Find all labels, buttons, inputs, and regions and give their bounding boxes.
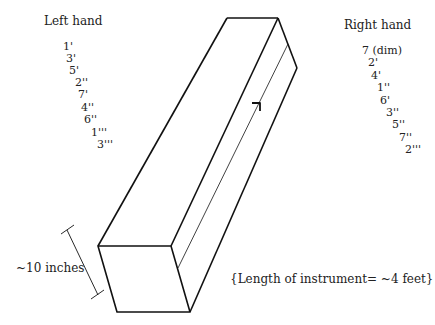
left-hand-note: 7' (78, 88, 88, 101)
length-note: {Length of instrument= ~4 feet} (230, 273, 433, 286)
dimension-label: ~10 inches (16, 262, 84, 275)
right-hand-note: 2' (368, 56, 378, 69)
right-hand-title: Right hand (344, 19, 411, 32)
right-hand-note: 1'' (377, 81, 390, 94)
dimension-tick-top (61, 225, 74, 234)
top-left-edge (98, 18, 227, 246)
back-right-edge (278, 18, 297, 68)
dimension-tick-bottom (91, 290, 104, 299)
left-hand-note: 6'' (84, 113, 97, 126)
right-hand-note: 5'' (392, 118, 405, 131)
left-hand-title: Left hand (44, 15, 102, 28)
string-line (178, 44, 288, 268)
right-hand-note: 2''' (405, 143, 421, 156)
front-face (98, 246, 190, 312)
top-right-edge (171, 18, 278, 246)
left-hand-note: 3''' (97, 138, 113, 151)
